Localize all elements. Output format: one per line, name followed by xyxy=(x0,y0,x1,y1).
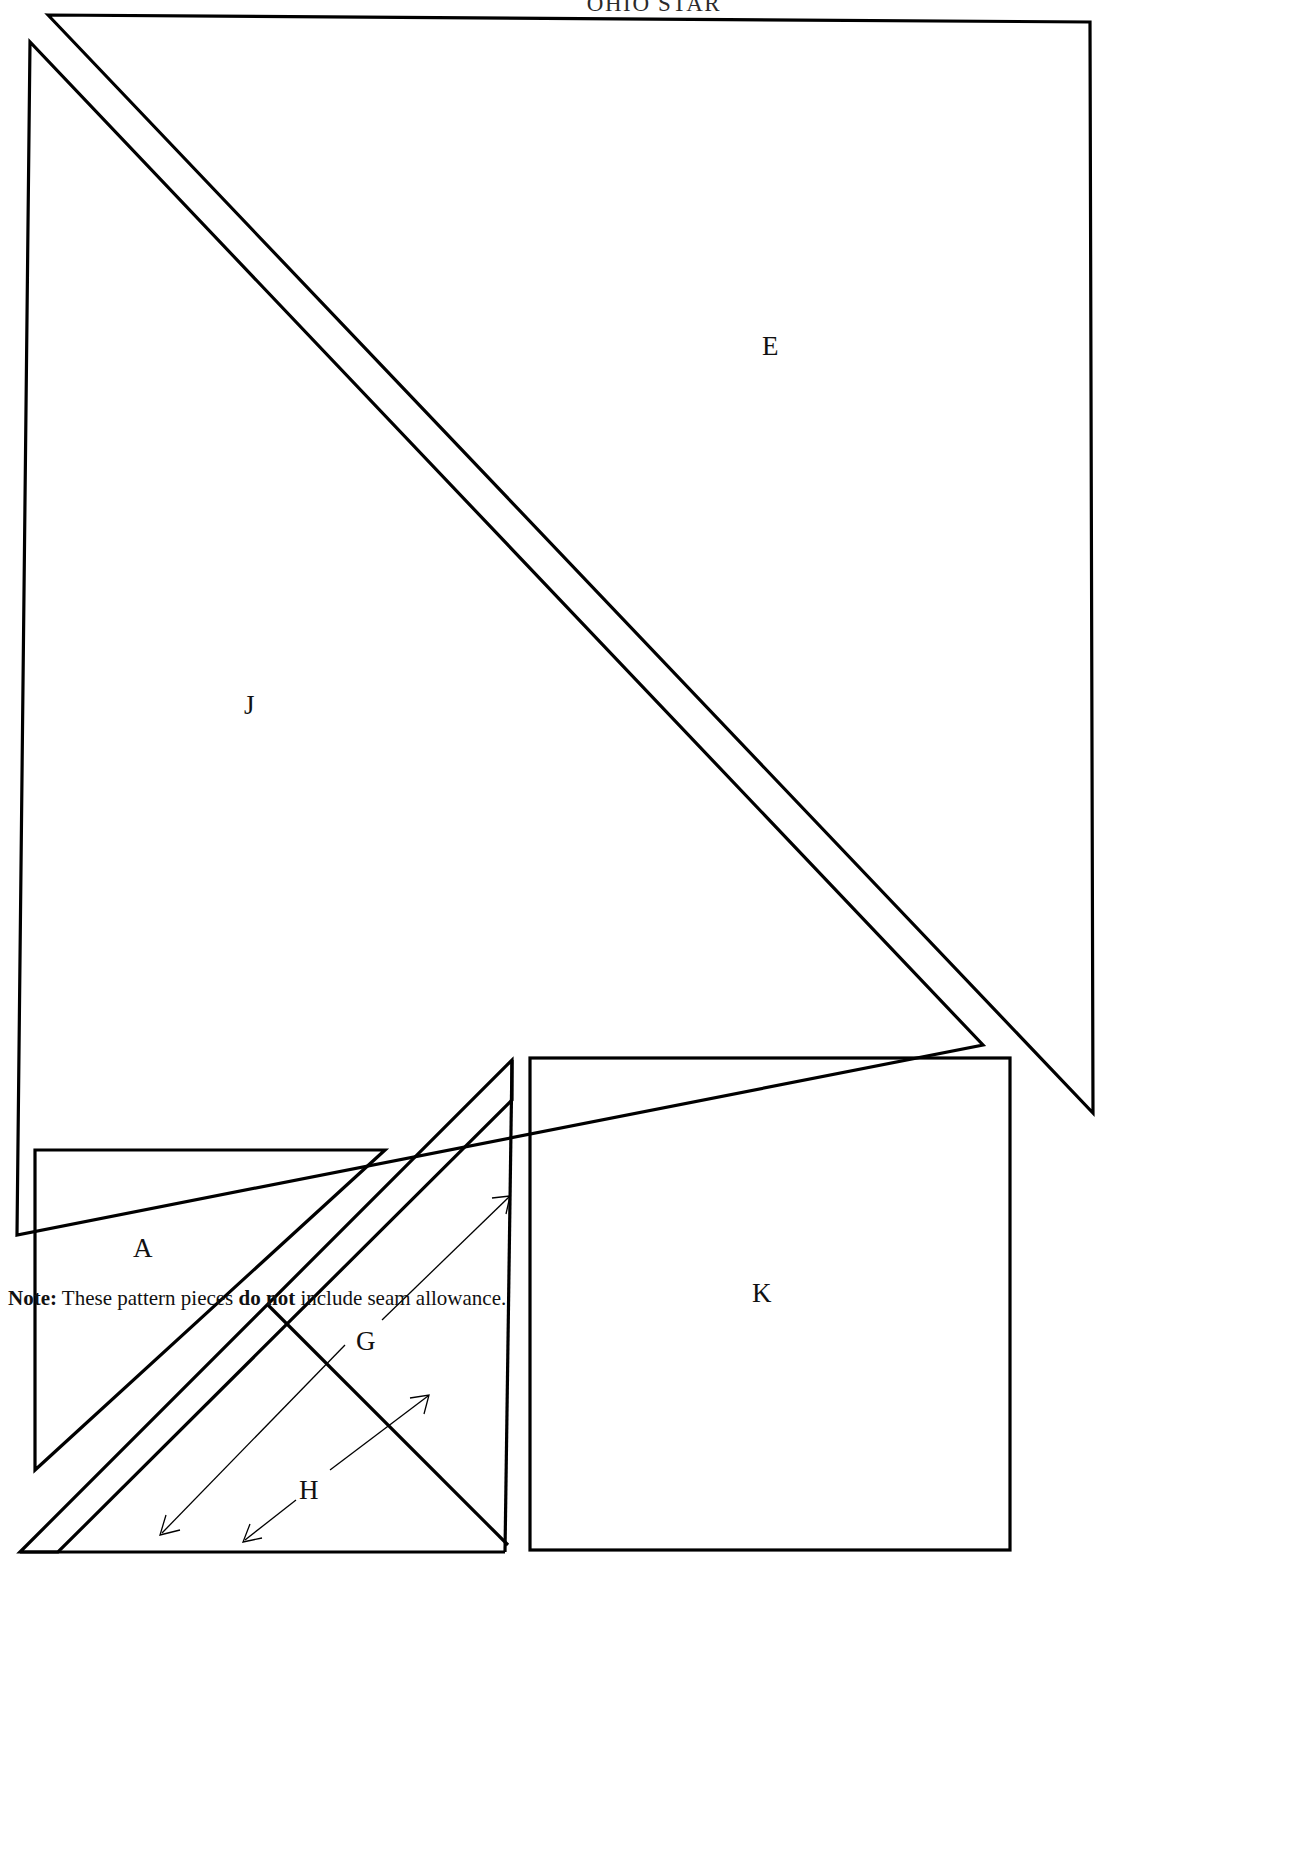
piece-label-j: J xyxy=(244,692,255,719)
h-leader-down-line xyxy=(245,1500,296,1540)
piece-label-k: K xyxy=(752,1280,772,1307)
pattern-sheet-page: OHIO STAR E J A G xyxy=(0,0,1308,1858)
seam-allowance-note: Note: These pattern pieces do not includ… xyxy=(8,1286,506,1311)
piece-outline-e xyxy=(48,15,1093,1113)
note-emphasis: do not xyxy=(239,1286,296,1310)
note-prefix: Note: xyxy=(8,1286,57,1310)
piece-label-g: G xyxy=(356,1328,376,1355)
piece-seam-h xyxy=(268,1305,508,1545)
piece-label-h: H xyxy=(299,1477,319,1504)
h-leader-up-line xyxy=(330,1396,428,1470)
piece-outline-j xyxy=(17,42,983,1235)
piece-label-a: A xyxy=(133,1235,153,1262)
pattern-drawing-canvas xyxy=(0,0,1308,1858)
note-text-part-2: include seam allowance. xyxy=(295,1286,506,1310)
note-text-part-1: These pattern pieces xyxy=(57,1286,239,1310)
piece-label-e: E xyxy=(762,333,779,360)
